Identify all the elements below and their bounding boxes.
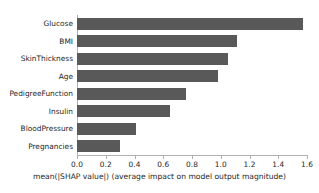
bar-bloodpressure bbox=[77, 123, 136, 135]
bar-row bbox=[0, 68, 319, 86]
bar-bmi bbox=[77, 35, 237, 47]
x-tick-mark bbox=[77, 156, 78, 159]
bar-row bbox=[0, 33, 319, 51]
bar-row bbox=[0, 138, 319, 156]
x-tick-label-1.0: 1.0 bbox=[215, 160, 227, 169]
x-tick-label-0.0: 0.0 bbox=[71, 160, 83, 169]
x-tick-label-0.2: 0.2 bbox=[100, 160, 112, 169]
bar-row bbox=[0, 85, 319, 103]
bar-pregnancies bbox=[77, 140, 120, 152]
bar-row bbox=[0, 15, 319, 33]
x-tick-mark bbox=[307, 156, 308, 159]
x-tick-mark bbox=[250, 156, 251, 159]
x-tick-label-0.8: 0.8 bbox=[186, 160, 198, 169]
x-tick-mark bbox=[163, 156, 164, 159]
x-axis-title: mean(|SHAP value|) (average impact on mo… bbox=[0, 172, 319, 181]
x-tick-mark bbox=[135, 156, 136, 159]
x-tick-mark bbox=[278, 156, 279, 159]
x-tick-label-1.4: 1.4 bbox=[272, 160, 284, 169]
bar-skinthickness bbox=[77, 53, 228, 65]
bar-insulin bbox=[77, 105, 170, 117]
shap-feature-importance-chart: GlucoseBMISkinThicknessAgePedigreeFuncti… bbox=[0, 0, 319, 193]
bar-glucose bbox=[77, 18, 303, 30]
x-tick-label-1.6: 1.6 bbox=[301, 160, 313, 169]
bar-row bbox=[0, 50, 319, 68]
x-tick-mark bbox=[192, 156, 193, 159]
x-tick-label-0.4: 0.4 bbox=[129, 160, 141, 169]
x-tick-mark bbox=[106, 156, 107, 159]
bar-row bbox=[0, 120, 319, 138]
x-tick-label-0.6: 0.6 bbox=[157, 160, 169, 169]
bar-pedigreefunction bbox=[77, 88, 186, 100]
x-tick-mark bbox=[221, 156, 222, 159]
bar-row bbox=[0, 103, 319, 121]
bar-age bbox=[77, 70, 218, 82]
x-tick-label-1.2: 1.2 bbox=[244, 160, 256, 169]
